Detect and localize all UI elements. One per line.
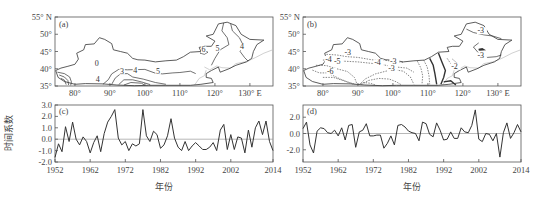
map-b-frame (303, 17, 521, 86)
lon-tick-label: 90° (352, 88, 364, 98)
y-tick-label: 0.0 (41, 134, 52, 144)
contour-label: -5 (334, 57, 341, 66)
contour-label: 4 (240, 42, 244, 51)
y-tick-label: 3.0 (41, 100, 52, 110)
lat-tick-label: 40° (40, 64, 52, 74)
ts-c-ylabel: 时间系数 (3, 115, 14, 151)
y-tick-label: 0.0 (289, 129, 300, 139)
x-tick-label: 2002 (470, 165, 487, 175)
contour-label: -4 (325, 55, 332, 64)
lon-tick-label: 90° (104, 88, 116, 98)
lon-tick-label: 110° (172, 88, 188, 98)
lon-tick-label: 100° (137, 88, 153, 98)
contour-label: 3 (120, 67, 124, 76)
contour-label: 5 (156, 67, 160, 76)
x-tick-label: 1982 (400, 165, 417, 175)
lon-tick-label: 80° (69, 88, 81, 98)
y-tick-label: -1.0 (39, 146, 52, 156)
map-a-lat-axis: 55° N50°45°40°35° (32, 12, 58, 91)
lat-tick-label: 40° (288, 64, 300, 74)
timeseries-panel-d: (d) 2.00.0-2.0 1952196219721982199220022… (287, 105, 531, 192)
lat-tick-label: 45° (40, 47, 52, 57)
lon-tick-label: 130° E (486, 88, 509, 98)
x-tick-label: 1952 (47, 165, 64, 175)
lat-tick-label: 55° N (32, 12, 52, 22)
contour-label: 0 (95, 59, 99, 68)
contour-label: 4 (96, 75, 100, 84)
panel-label-b: (b) (307, 19, 317, 29)
lat-tick-label: 50° (40, 29, 52, 39)
x-tick-label: 1992 (435, 165, 452, 175)
y-tick-label: 2.0 (41, 111, 52, 121)
x-tick-label: 1982 (152, 165, 169, 175)
y-tick-label: 2.0 (289, 112, 300, 122)
ts-c-frame (55, 105, 273, 162)
x-tick-label: 1962 (330, 165, 347, 175)
y-tick-label: 1.0 (41, 123, 52, 133)
lon-tick-label: 130° E (238, 88, 261, 98)
x-tick-label: 2002 (222, 165, 239, 175)
x-tick-label: 1992 (187, 165, 204, 175)
lat-tick-label: 55° N (280, 12, 300, 22)
contour-label: 5 (215, 44, 219, 53)
ts-c-xlabel: 年份 (155, 181, 173, 192)
lat-tick-label: 35° (40, 81, 52, 91)
x-tick-label: 2014 (265, 165, 283, 175)
contour-label: -3 (344, 48, 351, 57)
panel-label-d: (d) (307, 106, 317, 116)
map-panel-a: 04345654 (a) 55° N50°45°40°35° 80°90°100… (32, 12, 273, 98)
y-tick-label: -2.0 (287, 145, 300, 155)
ts-d-xlabel: 年份 (403, 181, 421, 192)
timeseries-panel-c: (c) 3.02.01.00.0-1.0-2.0 195219621972198… (3, 100, 282, 192)
figure: 04345654 (a) 55° N50°45°40°35° 80°90°100… (0, 0, 549, 199)
lon-tick-label: 120° (207, 88, 223, 98)
contour-label: -3 (388, 64, 395, 73)
lat-tick-label: 45° (288, 47, 300, 57)
lon-tick-label: 100° (385, 88, 401, 98)
x-tick-label: 1972 (365, 165, 382, 175)
lon-tick-label: 120° (455, 88, 471, 98)
contour-label: -2 (451, 62, 458, 71)
lon-tick-label: 110° (420, 88, 436, 98)
contour-label: -3 (477, 51, 484, 60)
panel-label-a: (a) (59, 19, 69, 29)
contour-label: 6 (201, 45, 205, 54)
panel-label-c: (c) (59, 106, 69, 116)
x-tick-label: 1952 (295, 165, 312, 175)
map-b-lat-axis: 55° N50°45°40°35° (280, 12, 306, 91)
contour-label: 4 (133, 66, 137, 75)
contour-label: -3 (477, 26, 484, 35)
contour-label: -6 (327, 67, 334, 76)
x-tick-label: 1972 (117, 165, 134, 175)
map-panel-b: -3-4-5-6-4-3-3-3-3-2 (b) 55° N50°45°40°3… (280, 12, 521, 98)
lat-tick-label: 35° (288, 81, 300, 91)
x-tick-label: 2014 (513, 165, 531, 175)
x-tick-label: 1962 (82, 165, 99, 175)
lon-tick-label: 80° (317, 88, 329, 98)
contour-label: -4 (374, 58, 381, 67)
lat-tick-label: 50° (288, 29, 300, 39)
